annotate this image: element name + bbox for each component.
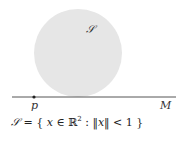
formula-colon: : ‖ <box>82 116 98 129</box>
disk-S <box>34 9 122 97</box>
formula-rest: ‖ < 1 } <box>104 116 143 129</box>
formula-in: ∈ ℝ <box>53 116 77 129</box>
formula-lhs: 𝒮 <box>11 116 20 129</box>
set-definition-formula: 𝒮 = { x ∈ ℝ2 : ‖x‖ < 1 } <box>11 115 143 129</box>
line-label: M <box>159 99 172 112</box>
point-label: p <box>31 99 38 112</box>
formula-eq: = { <box>20 116 47 129</box>
